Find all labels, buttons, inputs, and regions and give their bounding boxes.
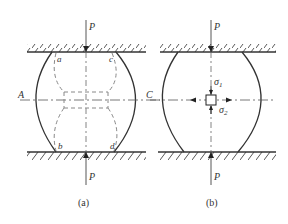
side-label-A: A — [17, 89, 25, 100]
barrel-outline-left-a — [36, 52, 56, 152]
point-label-c: c — [109, 54, 113, 64]
load-label-top-b: P — [213, 21, 220, 32]
stress-element — [206, 95, 216, 105]
top-plate-b — [160, 44, 276, 52]
panel-b: P P σ1 σ2 (b) — [150, 20, 276, 209]
sigma2-label: σ2 — [219, 104, 228, 117]
sigma1-label: σ1 — [214, 76, 222, 89]
caption-b: (b) — [206, 197, 218, 209]
sigma1-arrow-up-icon — [209, 105, 213, 110]
load-label-top-a: P — [88, 21, 95, 32]
sigma1-arrow-down-icon — [209, 90, 213, 95]
bottom-plate-b — [158, 152, 276, 160]
barrel-outline-right-b — [238, 52, 261, 152]
side-label-C: C — [146, 89, 153, 100]
barrel-outline-left-b — [162, 52, 184, 152]
point-label-d: d — [110, 141, 115, 151]
sigma2-arrow-right-icon — [226, 98, 232, 103]
caption-a: (a) — [78, 197, 89, 209]
point-label-b: b — [58, 141, 63, 151]
load-label-bottom-a: P — [88, 171, 95, 182]
dead-zone-curves-a — [54, 53, 117, 151]
panel-a: P P a c b d A C (a) — [17, 20, 160, 209]
sigma2-arrow-left-icon — [190, 98, 196, 103]
point-label-a: a — [57, 54, 62, 64]
diagram-canvas: P P a c b d A C (a) — [0, 0, 288, 224]
load-label-bottom-b: P — [213, 171, 220, 182]
